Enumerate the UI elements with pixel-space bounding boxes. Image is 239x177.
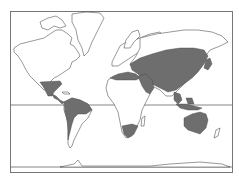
range-central-america xyxy=(52,94,64,104)
new-zealand xyxy=(214,128,220,138)
greenland xyxy=(72,12,104,56)
world-distribution-map xyxy=(0,0,239,177)
caribbean-islands xyxy=(62,92,70,94)
range-australia xyxy=(184,112,208,134)
range-north-africa xyxy=(110,72,140,80)
range-southeast-asia xyxy=(174,92,182,104)
range-borneo xyxy=(186,98,194,104)
madagascar xyxy=(141,116,145,126)
arctic-islands xyxy=(40,16,66,30)
north-america xyxy=(14,30,80,90)
antarctica-edge xyxy=(60,160,230,167)
